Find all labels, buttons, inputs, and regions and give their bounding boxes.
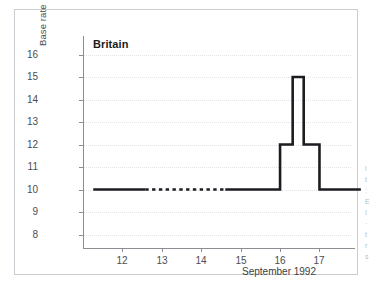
- series-segment-solid: [225, 77, 361, 190]
- chart-figure: Britain Base rate 8910111213141516 12131…: [0, 0, 377, 288]
- x-axis-caption: September 1992: [242, 266, 316, 277]
- base-rate-line-series: [15, 10, 377, 288]
- chart-panel: Britain Base rate 8910111213141516 12131…: [14, 9, 358, 275]
- page-text-bleed: lt:EI·trs: [365, 163, 377, 283]
